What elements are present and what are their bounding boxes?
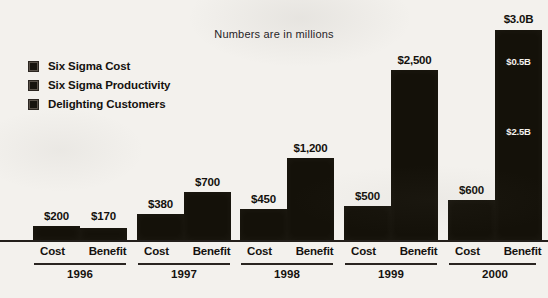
legend-item-label: Delighting Customers [48,98,165,110]
chart-title: Numbers are in millions [0,28,548,40]
bar-label-2000-benefit: $3.0B [493,13,544,25]
chart-container: Numbers are in millions Six Sigma Cost S… [0,0,548,298]
bar-label-1998-cost: $450 [240,193,287,205]
bar-segment-label-2000-benefit-upper: $0.5B [495,56,542,67]
legend-swatch-icon [28,80,39,91]
legend-item-six-sigma-cost: Six Sigma Cost [28,58,170,74]
bar-1996-benefit [80,228,127,240]
bar-1998-benefit [287,158,334,240]
bar-label-1997-benefit: $700 [184,176,231,188]
legend-item-six-sigma-productivity: Six Sigma Productivity [28,77,170,93]
bar-label-1998-benefit: $1,200 [285,142,336,154]
axis-baseline [0,240,548,242]
bar-1998-cost [240,209,287,240]
bar-2000-cost [448,200,495,240]
bar-label-1997-cost: $380 [137,198,184,210]
bar-label-1999-cost: $500 [344,190,391,202]
legend-swatch-icon [28,61,39,72]
bar-label-2000-cost: $600 [448,184,495,196]
legend-item-label: Six Sigma Productivity [48,79,170,91]
legend-item-label: Six Sigma Cost [48,60,130,72]
bar-1999-cost [344,206,391,240]
bar-1996-cost [33,226,80,240]
bar-1997-benefit [184,192,231,240]
legend-item-delighting-customers: Delighting Customers [28,96,170,112]
bar-label-1996-cost: $200 [33,210,80,222]
bar-1999-benefit [391,70,438,240]
bar-segment-label-2000-benefit-lower: $2.5B [495,126,542,137]
plot-area: $200 $170 $380 $700 $450 $1,200 $500 $2,… [0,0,548,298]
bar-label-1996-benefit: $170 [80,210,127,222]
bar-1997-cost [137,214,184,240]
bar-label-1999-benefit: $2,500 [389,54,440,66]
legend-swatch-icon [28,99,39,110]
chart-legend: Six Sigma Cost Six Sigma Productivity De… [28,58,170,115]
